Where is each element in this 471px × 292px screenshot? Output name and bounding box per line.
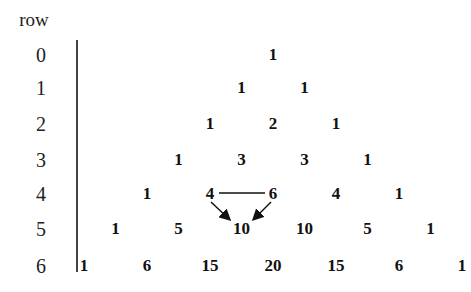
arrow-left — [211, 202, 229, 219]
arrow-right — [254, 202, 271, 219]
pascal-triangle-diagram: row 0123456 1111211331146411510105116152… — [0, 0, 471, 292]
sum-arrows — [0, 0, 471, 292]
